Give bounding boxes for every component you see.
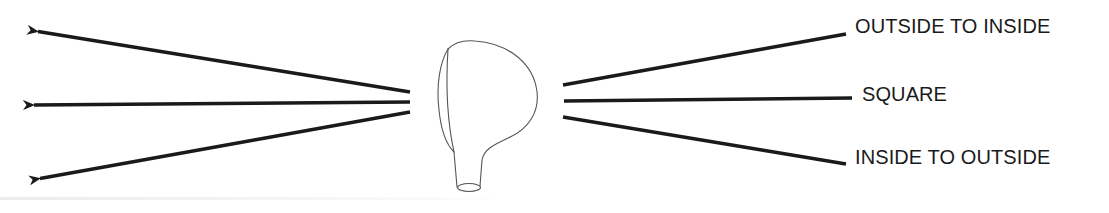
right-lines-group <box>563 34 852 164</box>
hosel-opening <box>458 184 481 192</box>
scan-artifact-band <box>0 197 490 200</box>
swing-path-line-inside-to-outside <box>563 117 846 164</box>
ball-flight-arrow-middle <box>34 102 410 105</box>
label-outside-to-inside: OUTSIDE TO INSIDE <box>855 16 1050 36</box>
swing-path-line-outside-to-inside <box>563 34 846 85</box>
swing-path-line-square <box>564 98 852 101</box>
club-face-line <box>447 49 454 152</box>
label-inside-to-outside: INSIDE TO OUTSIDE <box>855 147 1050 167</box>
swing-path-diagram: OUTSIDE TO INSIDE SQUARE INSIDE TO OUTSI… <box>0 0 1109 213</box>
club-head-outline <box>448 41 537 186</box>
ball-flight-arrow-bottom <box>40 112 410 179</box>
left-arrows-group <box>34 32 410 179</box>
label-square: SQUARE <box>862 84 947 104</box>
ball-flight-arrow-top <box>38 32 410 93</box>
golf-club-head-icon <box>438 41 537 192</box>
